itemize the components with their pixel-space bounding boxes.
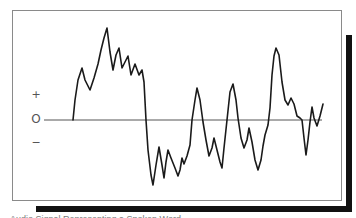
waveform-line	[73, 28, 323, 185]
waveform-plot	[0, 0, 356, 218]
chart-caption: Audio Signal Representing a Spoken Word	[10, 214, 350, 218]
